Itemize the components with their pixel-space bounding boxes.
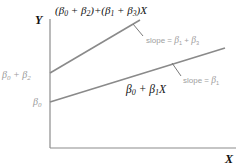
lower-slope-leader bbox=[172, 63, 181, 76]
upper-slope-leader bbox=[133, 24, 143, 36]
lower-slope-label: slope = β1 bbox=[183, 76, 219, 86]
upper-intercept-label: β0 + β2 bbox=[2, 70, 31, 80]
upper-line-equation: (β0 + β2)+(β1 + β3)X bbox=[55, 5, 147, 16]
lower-intercept-label: β0 bbox=[33, 97, 41, 107]
y-axis-label: Y bbox=[35, 14, 42, 26]
upper-slope-label: slope = β1 + β3 bbox=[146, 36, 199, 46]
x-axis-label: X bbox=[225, 153, 233, 165]
lower-line-equation: β0 + β1X bbox=[126, 84, 166, 96]
upper-regression-line bbox=[50, 20, 140, 73]
